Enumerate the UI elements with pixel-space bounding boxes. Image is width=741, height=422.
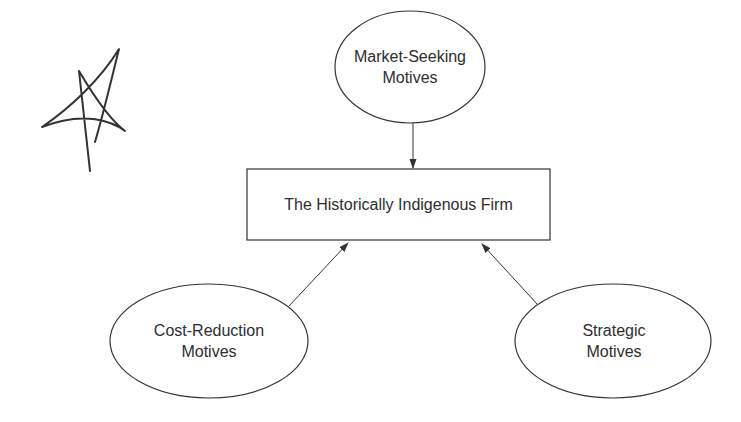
arrow-cost-to-firm [289, 243, 348, 306]
firm-label-text: The Historically Indigenous Firm [247, 194, 550, 215]
cost-reduction-line2: Motives [134, 341, 284, 362]
market-seeking-line2: Motives [335, 67, 485, 88]
handwritten-star-mark-icon [42, 49, 125, 171]
strategic-line1: Strategic [539, 320, 689, 341]
arrow-strategic-to-firm [482, 244, 538, 305]
firm-label: The Historically Indigenous Firm [247, 194, 550, 215]
cost-reduction-label: Cost-Reduction Motives [134, 320, 284, 362]
market-seeking-line1: Market-Seeking [335, 46, 485, 67]
strategic-label: Strategic Motives [539, 320, 689, 362]
cost-reduction-line1: Cost-Reduction [134, 320, 284, 341]
market-seeking-label: Market-Seeking Motives [335, 46, 485, 88]
strategic-line2: Motives [539, 341, 689, 362]
